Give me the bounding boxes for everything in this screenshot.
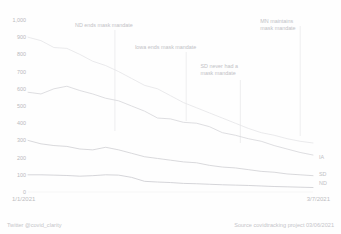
x-axis-end-label: 3/7/2021 bbox=[307, 196, 330, 202]
y-axis-tick-label: 100 bbox=[17, 172, 26, 178]
series-line-ia bbox=[28, 86, 313, 155]
y-axis: 1,0009008007006005004003002001000 bbox=[0, 20, 26, 192]
series-line-nd bbox=[28, 175, 313, 188]
series-line-sd bbox=[28, 140, 313, 175]
y-axis-tick-label: 400 bbox=[17, 120, 26, 126]
annotation-text-line2: mask mandate bbox=[200, 70, 237, 77]
chart-title bbox=[0, 1, 341, 8]
x-axis-start-label: 1/1/2021 bbox=[12, 196, 35, 202]
annotation-text-line1: ND ends mask mandate bbox=[75, 22, 133, 29]
footer-twitter-handle: Twitter @covid_clarity bbox=[7, 222, 61, 228]
footer-source: Source covidtracking project 03/06/2021 bbox=[234, 222, 334, 228]
series-lines-group bbox=[28, 37, 313, 187]
series-label-sd: SD bbox=[319, 171, 327, 177]
annotation-text-line1: Iowa ends mask mandate bbox=[135, 44, 196, 51]
y-axis-tick-label: 500 bbox=[17, 103, 26, 109]
annotation-text-line2: mask mandate bbox=[260, 25, 295, 32]
y-axis-tick-label: 700 bbox=[17, 69, 26, 75]
annotation-label-nd-ends: ND ends mask mandate bbox=[75, 22, 133, 29]
y-axis-tick-label: 1,000 bbox=[13, 17, 27, 23]
annotation-label-sd-none: SD never had amask mandate bbox=[200, 63, 237, 78]
y-axis-tick-label: 200 bbox=[17, 155, 26, 161]
series-line-mn bbox=[28, 37, 313, 143]
series-label-nd: ND bbox=[319, 180, 327, 186]
y-axis-tick-label: 900 bbox=[17, 34, 26, 40]
y-axis-tick-label: 300 bbox=[17, 137, 26, 143]
annotation-text-line1: SD never had a bbox=[200, 63, 237, 70]
annotation-label-ia-ends: Iowa ends mask mandate bbox=[135, 44, 196, 51]
y-axis-tick-label: 0 bbox=[23, 189, 26, 195]
chart-container: 1,0009008007006005004003002001000 ND end… bbox=[0, 0, 341, 234]
y-axis-tick-label: 600 bbox=[17, 86, 26, 92]
annotation-text-line1: MN maintains bbox=[260, 18, 295, 25]
annotation-label-mn-maintains: MN maintainsmask mandate bbox=[260, 18, 295, 33]
y-axis-tick-label: 800 bbox=[17, 51, 26, 57]
series-label-ia: IA bbox=[319, 154, 324, 160]
